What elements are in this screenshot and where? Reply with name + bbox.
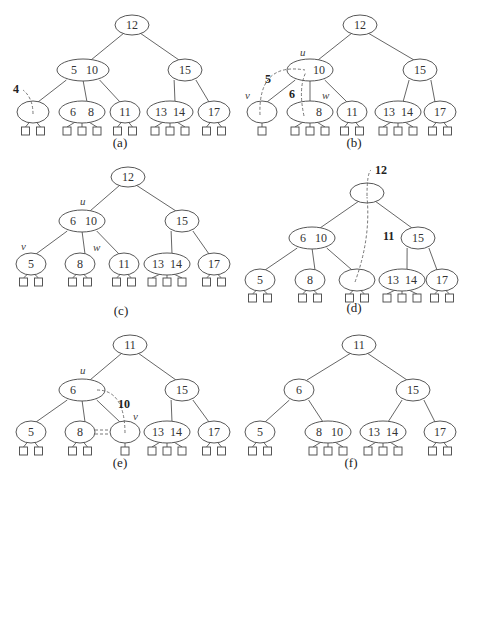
- panel-caption: (e): [113, 455, 127, 470]
- external-leaf: [203, 447, 211, 455]
- node-label-w: w: [93, 241, 101, 253]
- node-label-u: u: [80, 364, 86, 376]
- node-key: 12: [122, 170, 134, 184]
- node-label-u: u: [80, 195, 86, 207]
- external-leaf: [429, 127, 437, 135]
- external-leaf: [178, 447, 186, 455]
- node-key: 15: [176, 383, 188, 397]
- tree-edge: [431, 80, 435, 102]
- external-leaf: [379, 127, 387, 135]
- tree-node: [360, 421, 406, 443]
- tree-edge: [171, 400, 172, 422]
- node-key: 6: [70, 214, 76, 228]
- external-leaf: [218, 278, 226, 286]
- external-leaf: [249, 294, 257, 302]
- node-key: 8: [88, 105, 94, 119]
- tree-edge: [97, 400, 120, 422]
- external-leaf: [291, 127, 299, 135]
- node-key: 8: [77, 425, 83, 439]
- tree-edge: [174, 80, 175, 102]
- external-leaf: [361, 294, 369, 302]
- panel-a: 12510156811131417(a)4: [13, 15, 230, 150]
- node-key: 10: [331, 425, 343, 439]
- tree-node: [59, 101, 105, 123]
- node-key: 15: [179, 63, 191, 77]
- external-leaf: [413, 294, 421, 302]
- node-key: 10: [86, 63, 98, 77]
- node-key: 6: [300, 231, 306, 245]
- node-key: 8: [316, 105, 322, 119]
- panel-e: 1161558131417(e)uv10: [16, 335, 230, 470]
- tree-edge: [429, 248, 437, 270]
- tree-edge: [36, 400, 67, 422]
- node-key: 13: [368, 425, 380, 439]
- external-leaf: [148, 447, 156, 455]
- tree-edge: [140, 33, 179, 60]
- tree-edge: [90, 185, 120, 211]
- node-key: 11: [118, 257, 130, 271]
- node-label-v: v: [21, 240, 26, 252]
- node-key: 14: [173, 105, 185, 119]
- external-leaf: [148, 278, 156, 286]
- node-key: 6: [296, 383, 302, 397]
- tree-edge: [38, 80, 66, 102]
- annotation-key: 12: [375, 163, 387, 177]
- node-key: 6: [70, 105, 76, 119]
- node-key: 5: [28, 257, 34, 271]
- node-key: 11: [346, 105, 358, 119]
- node-key: 11: [119, 105, 131, 119]
- tree-node: [289, 227, 335, 249]
- node-key: 17: [434, 425, 446, 439]
- tree-node: [339, 269, 375, 291]
- node-key: 10: [313, 63, 325, 77]
- node-key: 5: [28, 425, 34, 439]
- external-leaf: [324, 447, 332, 455]
- panel-caption: (d): [346, 300, 361, 315]
- external-leaf: [309, 447, 317, 455]
- node-key: 13: [155, 105, 167, 119]
- external-leaf: [264, 294, 272, 302]
- tree-edge: [82, 231, 85, 254]
- node-key: 17: [208, 425, 220, 439]
- annotation-key: 11: [383, 229, 394, 243]
- external-leaf: [69, 278, 77, 286]
- node-key: 17: [208, 105, 220, 119]
- external-leaf: [203, 127, 211, 135]
- external-leaf: [379, 447, 387, 455]
- node-key: 10: [315, 231, 327, 245]
- external-leaf: [431, 294, 439, 302]
- external-leaf: [339, 447, 347, 455]
- tree-node: [247, 101, 277, 123]
- node-key: 13: [152, 425, 164, 439]
- external-leaf: [114, 127, 122, 135]
- external-leaf: [446, 294, 454, 302]
- tree-edge: [36, 231, 67, 254]
- node-label-v: v: [245, 89, 250, 101]
- tree-edge: [320, 201, 359, 228]
- external-leaf: [398, 294, 406, 302]
- external-leaf: [78, 127, 86, 135]
- external-leaf: [69, 447, 77, 455]
- external-leaf: [383, 294, 391, 302]
- node-key: 14: [401, 105, 413, 119]
- external-leaf: [394, 447, 402, 455]
- tree-edge: [171, 231, 172, 254]
- tree-edge: [196, 80, 209, 102]
- external-leaf: [314, 294, 322, 302]
- tree-edge: [309, 400, 323, 422]
- tree-edge: [318, 33, 352, 60]
- tree-edge: [375, 201, 412, 228]
- external-leaf: [121, 447, 129, 455]
- tree-edge: [193, 231, 209, 254]
- tree-edge: [424, 400, 435, 422]
- tree-node: [147, 101, 193, 123]
- annotation-key: 10: [118, 397, 130, 411]
- external-leaf: [258, 127, 266, 135]
- node-key: 15: [176, 214, 188, 228]
- node-key: 8: [77, 257, 83, 271]
- external-leaf: [409, 127, 417, 135]
- node-key: 8: [307, 273, 313, 287]
- node-label-w: w: [322, 89, 330, 101]
- external-leaf: [356, 127, 364, 135]
- annotation-key: 4: [13, 82, 19, 96]
